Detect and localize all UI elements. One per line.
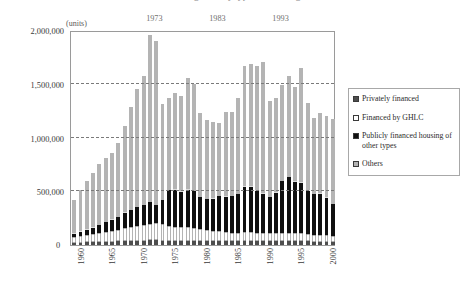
bar-segment-privately-financed [261,62,265,195]
bar-segment-others [192,241,196,245]
y-tick-1500000: 1,500,000 [31,80,65,89]
bar-segment-financed-by-ghlc [287,177,291,233]
bar-segment-publicly-financed-housing-of-other-types [116,230,120,242]
bar-segment-others [186,241,190,245]
bar-segment-others [211,241,215,245]
bar-segment-privately-financed [161,104,165,199]
legend-item-public_other[interactable]: Publicly financed housing of other types [353,131,456,150]
y-axis-zero-label: 0 [56,241,60,250]
bar-1983 [217,123,221,245]
bar-segment-privately-financed [154,41,158,205]
bar-1967 [116,143,120,245]
bar-segment-publicly-financed-housing-of-other-types [205,230,209,241]
bar-1960 [72,200,76,245]
bar-segment-publicly-financed-housing-of-other-types [167,226,171,241]
bar-segment-financed-by-ghlc [186,190,190,228]
bar-1987 [243,66,247,245]
legend-item-others[interactable]: Others [353,159,456,169]
bar-1981 [205,120,209,245]
bar-segment-publicly-financed-housing-of-other-types [217,231,221,241]
bar-1972 [148,35,152,245]
bar-segment-others [135,241,139,245]
bar-segment-others [236,241,240,245]
hatched-square-icon [353,161,359,167]
bar-segment-privately-financed [274,98,278,193]
bar-segment-privately-financed [312,118,316,194]
bar-segment-privately-financed [116,143,120,217]
bar-1999 [318,113,322,245]
bar-segment-privately-financed [91,173,95,228]
bar-1986 [236,98,240,245]
bar-segment-publicly-financed-housing-of-other-types [97,233,101,242]
figure-title-text: Housing starts by type of financing [0,0,467,1]
bar-segment-financed-by-ghlc [142,205,146,225]
bar-segment-financed-by-ghlc [104,222,108,232]
x-tick-1975: 1975 [171,248,180,264]
bar-segment-others [325,242,329,245]
legend-item-label: Publicly financed housing of other types [362,131,456,150]
bar-segment-financed-by-ghlc [161,200,165,225]
bar-segment-privately-financed [268,101,272,197]
bar-segment-financed-by-ghlc [280,181,284,233]
bar-1971 [142,76,146,245]
x-tick-2000: 2000 [329,248,338,264]
bar-1961 [79,190,83,245]
bar-segment-publicly-financed-housing-of-other-types [293,233,297,241]
bar-1963 [91,173,95,245]
bar-segment-privately-financed [198,113,202,197]
bar-segment-financed-by-ghlc [217,196,221,231]
bar-segment-publicly-financed-housing-of-other-types [192,228,196,241]
figure-title-cropped: Housing starts by type of financing [0,0,467,8]
bar-segment-privately-financed [224,112,228,196]
bar-segment-publicly-financed-housing-of-other-types [85,235,89,242]
bar-1978 [186,78,190,245]
bar-segment-privately-financed [299,68,303,182]
y-tick-2000000: 2,000,000 [31,27,65,36]
bar-segment-privately-financed [205,120,209,199]
bar-segment-publicly-financed-housing-of-other-types [173,227,177,241]
bar-segment-financed-by-ghlc [331,204,335,236]
bar-1990 [261,62,265,245]
bar-1993 [280,85,284,245]
bar-segment-financed-by-ghlc [205,199,209,230]
bar-segment-privately-financed [123,126,127,214]
bar-segment-financed-by-ghlc [255,191,259,233]
bar-1989 [255,66,259,245]
bar-segment-financed-by-ghlc [154,205,158,223]
bar-segment-privately-financed [85,181,89,230]
bar-segment-privately-financed [230,112,234,196]
bar-segment-others [331,242,335,245]
bar-segment-publicly-financed-housing-of-other-types [91,234,95,242]
bar-2001 [331,119,335,245]
bar-1996 [299,68,303,245]
bar-segment-others [230,241,234,245]
y-tick-1000000: 1,000,000 [31,134,65,143]
bar-segment-privately-financed [280,85,284,181]
bar-segment-financed-by-ghlc [261,194,265,233]
bar-segment-others [142,241,146,246]
bar-1994 [287,76,291,245]
bar-1988 [249,64,253,245]
legend-item-ghlc[interactable]: Financed by GHLC [353,113,456,123]
bar-segment-publicly-financed-housing-of-other-types [148,224,152,240]
bar-segment-others [198,241,202,245]
bar-segment-privately-financed [72,200,76,234]
bar-segment-privately-financed [293,87,297,182]
legend-item-privately_financed[interactable]: Privately financed [353,94,456,104]
bar-segment-privately-financed [148,35,152,202]
bar-1984 [224,112,228,245]
bar-segment-others [129,241,133,245]
legend-item-label: Privately financed [362,94,419,104]
bar-segment-publicly-financed-housing-of-other-types [135,226,139,241]
bar-segment-financed-by-ghlc [97,225,101,233]
bar-segment-publicly-financed-housing-of-other-types [211,231,215,241]
bar-segment-publicly-financed-housing-of-other-types [154,223,158,240]
bar-segment-publicly-financed-housing-of-other-types [280,233,284,241]
bar-segment-publicly-financed-housing-of-other-types [179,227,183,240]
x-tick-1960: 1960 [77,248,86,264]
bar-segment-financed-by-ghlc [236,194,240,233]
bar-1980 [198,113,202,245]
y-axis-tick-labels: 500,0001,000,0001,500,0002,000,000 [0,31,68,246]
bar-segment-financed-by-ghlc [192,191,196,228]
bar-segment-others [255,241,259,245]
